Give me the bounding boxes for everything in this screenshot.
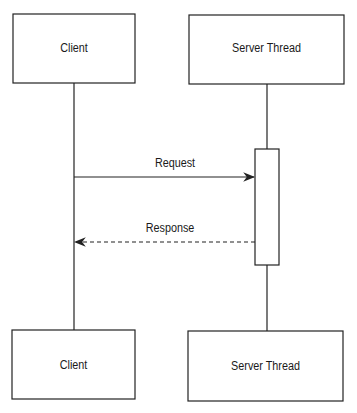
- client-label-bottom: Client: [18, 358, 129, 372]
- request-label: Request: [126, 156, 225, 170]
- response-label: Response: [116, 221, 224, 235]
- server-label-bottom: Server Thread: [196, 359, 336, 373]
- client-label-top: Client: [19, 41, 129, 55]
- server-label-top: Server Thread: [197, 41, 337, 55]
- sequence-diagram: [0, 0, 357, 413]
- server-activation-bar: [255, 149, 279, 265]
